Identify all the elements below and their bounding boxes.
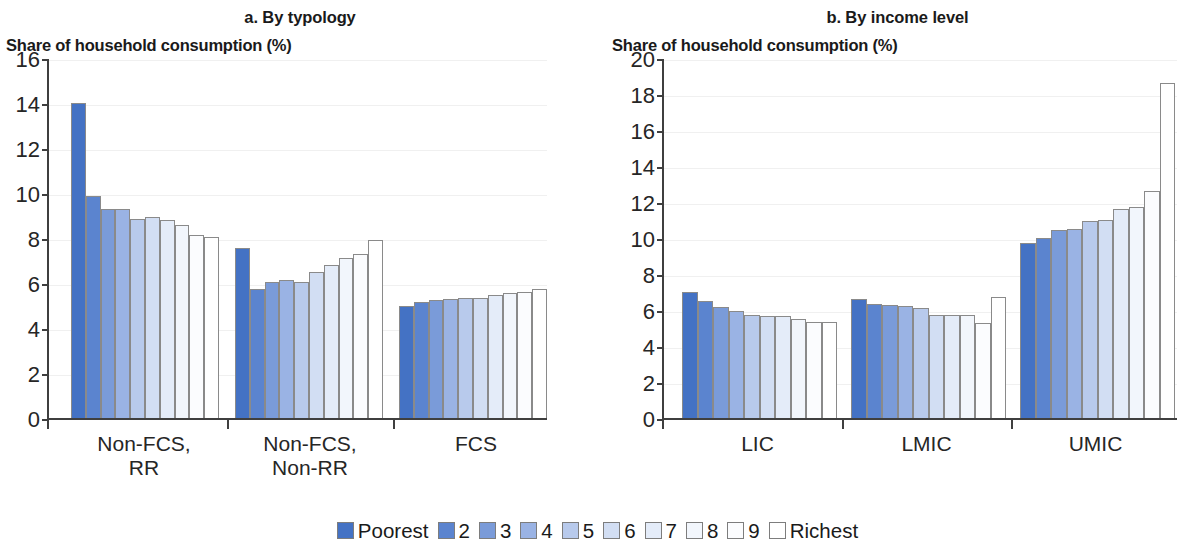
bar [1098, 220, 1114, 418]
bar [991, 297, 1007, 418]
bar [867, 304, 883, 418]
y-axis-tick [42, 149, 49, 151]
y-axis-tick [657, 95, 664, 97]
bar-groups [664, 60, 1177, 418]
y-axis-tick [42, 329, 49, 331]
bar [175, 225, 190, 419]
panel-b-plot-area: 02468101214161820 [662, 60, 1177, 420]
y-axis-tick-label: 6 [643, 301, 655, 323]
group-gap [837, 60, 851, 418]
legend-item: 7 [645, 521, 677, 542]
legend-item: 9 [727, 521, 759, 542]
legend-label: 9 [748, 521, 759, 542]
panel-b-x-axis: LICLMICUMIC [662, 420, 1177, 482]
legend-label: 7 [666, 521, 677, 542]
panel-b-plot-wrap: 02468101214161820 LICLMICUMIC [600, 60, 1195, 482]
y-axis-tick [657, 167, 664, 169]
bar [339, 258, 354, 418]
bar [1020, 243, 1036, 418]
y-axis-tick-label: 8 [28, 229, 40, 251]
y-axis-tick [42, 194, 49, 196]
bar [1160, 83, 1176, 418]
bar [86, 196, 101, 418]
group-gap [1006, 60, 1020, 418]
y-axis-tick-label: 18 [631, 85, 655, 107]
panel-a-title: a. By typology [0, 0, 600, 30]
bar [929, 315, 945, 418]
x-axis-tick [1011, 420, 1013, 429]
bar [399, 306, 414, 419]
legend-swatch [562, 522, 579, 539]
legend-swatch [479, 522, 496, 539]
bar [443, 299, 458, 418]
bar [775, 316, 791, 418]
legend-swatch [686, 522, 703, 539]
y-axis-tick-label: 0 [643, 409, 655, 431]
bar [115, 209, 130, 418]
x-axis-category-label: Non-FCS, Non-RR [263, 432, 356, 479]
bar [160, 220, 175, 418]
y-axis-tick [657, 311, 664, 313]
bar [1067, 229, 1083, 418]
bar [1144, 191, 1160, 418]
group-gap [219, 60, 235, 418]
x-axis-category-label: UMIC [1069, 432, 1123, 456]
axis-gap [49, 60, 71, 418]
y-axis-tick-label: 14 [16, 94, 40, 116]
bar [898, 306, 914, 418]
bar [882, 305, 898, 418]
y-axis-tick-label: 12 [631, 193, 655, 215]
panel-a-axis-title: Share of household consumption (%) [0, 30, 600, 60]
bar [235, 248, 250, 418]
legend-label: Poorest [358, 521, 429, 542]
bar [975, 323, 991, 418]
panel-b-axis-title: Share of household consumption (%) [600, 30, 1195, 60]
legend-swatch [603, 522, 620, 539]
legend-label: 2 [459, 521, 470, 542]
x-axis-category-label: LIC [741, 432, 774, 456]
x-axis-category-label: LMIC [901, 432, 951, 456]
y-axis-tick [657, 131, 664, 133]
bar-group [682, 60, 837, 418]
bar [698, 301, 714, 418]
bar [944, 315, 960, 418]
y-axis-tick-label: 14 [631, 157, 655, 179]
bar [101, 209, 116, 418]
bar [145, 217, 160, 418]
legend-swatch [337, 522, 354, 539]
group-gap [383, 60, 399, 418]
legend-item: Richest [769, 521, 858, 542]
panel-by-income-level: b. By income level Share of household co… [600, 0, 1195, 505]
legend-swatch [520, 522, 537, 539]
legend-label: Richest [790, 521, 858, 542]
bar [532, 289, 547, 418]
y-axis-tick-label: 2 [28, 364, 40, 386]
x-axis-tick [662, 420, 664, 429]
figure: a. By typology Share of household consum… [0, 0, 1195, 545]
legend-item: 4 [520, 521, 552, 542]
legend-item: Poorest [337, 521, 429, 542]
legend-item: 8 [686, 521, 718, 542]
legend-label: 8 [707, 521, 718, 542]
bar [368, 240, 383, 418]
legend-label: 5 [583, 521, 594, 542]
panel-b-title: b. By income level [600, 0, 1195, 30]
bar [458, 298, 473, 418]
y-axis-tick [657, 383, 664, 385]
panel-a-plot-wrap: 0246810121416 Non-FCS, RRNon-FCS, Non-RR… [0, 60, 600, 482]
x-axis-category-label: Non-FCS, RR [97, 432, 190, 479]
bar [71, 103, 86, 418]
y-axis-tick-label: 4 [28, 319, 40, 341]
x-axis-tick [227, 420, 229, 429]
bar [189, 235, 204, 418]
y-axis-tick-label: 16 [16, 49, 40, 71]
bar [414, 302, 429, 418]
y-axis-tick [42, 374, 49, 376]
bar [265, 282, 280, 418]
y-axis-tick-label: 6 [28, 274, 40, 296]
bar [960, 315, 976, 418]
y-axis-tick [657, 239, 664, 241]
x-axis-category-label: FCS [455, 432, 497, 456]
bar [1051, 230, 1067, 418]
bar-group [71, 60, 219, 418]
